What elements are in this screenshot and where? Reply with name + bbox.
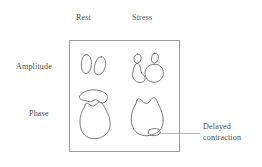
phase-rest-shapes [79,90,110,139]
annotation-delayed-contraction-line1: Delayed [203,122,231,131]
amplitude-stress-shapes [133,53,164,82]
row-label-phase: Phase [29,108,49,119]
phase-stress-shapes [131,98,163,136]
annotation-delayed-contraction-line2: contraction [203,132,241,143]
amplitude-stress-small-ellipse-1 [134,54,141,63]
column-header-stress: Stress [132,12,152,23]
nuclear-imaging-figure: Rest Stress Amplitude Phase Delayed cont… [0,0,262,167]
annotation-delayed-contraction: Delayed contraction [203,121,241,143]
panel-box [70,41,180,152]
phase-rest-main-blob [80,102,110,139]
amplitude-rest-ellipse-1 [81,55,91,74]
amplitude-stress-small-ellipse-2 [151,53,158,63]
amplitude-stress-large-blob-2 [145,64,163,82]
row-label-amplitude: Amplitude [16,61,52,72]
phase-rest-crescent [79,90,107,103]
amplitude-rest-ellipse-2 [94,57,105,75]
phase-stress-main-blob [131,98,163,136]
amplitude-stress-large-blob-1 [133,63,146,82]
column-header-rest: Rest [76,12,91,23]
amplitude-rest-shapes [81,55,105,75]
